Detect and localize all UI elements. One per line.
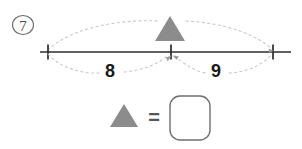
lower-arc-eight-right	[124, 56, 167, 72]
lower-guide-arcs	[48, 54, 272, 73]
guide-arrowheads	[166, 48, 274, 61]
problem-number-label: 7	[19, 18, 27, 34]
number-line-diagram: 7 8 9	[0, 0, 302, 149]
arrowhead-from-nine	[173, 56, 180, 60]
equals-sign: =	[148, 106, 160, 128]
problem-number: 7	[13, 16, 34, 35]
triangle-marker-icon	[155, 16, 185, 41]
answer-box[interactable]	[170, 96, 210, 140]
lower-arc-eight-left	[48, 54, 100, 73]
segment-label-left: 8	[105, 61, 115, 81]
lower-arc-nine-right	[229, 54, 272, 73]
upper-arc-left	[48, 21, 158, 50]
segment-label-right: 9	[211, 61, 221, 81]
upper-arc-right	[186, 21, 272, 49]
lower-arc-nine-left	[175, 56, 206, 73]
answer-triangle-icon	[110, 104, 138, 127]
worksheet-problem: 7 8 9	[0, 0, 302, 149]
